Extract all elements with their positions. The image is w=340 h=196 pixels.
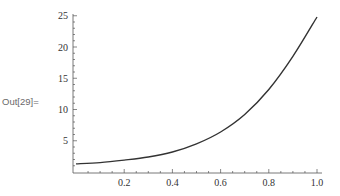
y-tick-label: 10 [58,104,68,115]
line-chart: 0.20.40.60.81.0510152025 [0,0,340,196]
y-tick-label: 25 [58,10,68,21]
y-tick-label: 5 [63,135,68,146]
x-tick-label: 0.8 [263,177,276,188]
y-tick-label: 15 [58,73,68,84]
x-tick-label: 0.4 [166,177,179,188]
x-tick-label: 1.0 [311,177,324,188]
y-tick-label: 20 [58,42,68,53]
x-tick-label: 0.6 [214,177,227,188]
series-line [76,17,317,164]
x-tick-label: 0.2 [118,177,131,188]
